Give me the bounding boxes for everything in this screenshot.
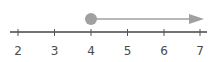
tick-label: 6 [160,44,168,58]
tick-label: 5 [124,44,132,58]
tick-labels: 2 3 4 5 6 7 [14,44,204,58]
closed-endpoint-circle [85,13,97,25]
tick-label: 4 [87,44,95,58]
tick-label: 3 [51,44,59,58]
tick-label: 7 [196,44,204,58]
tick-label: 2 [14,44,22,58]
arrowhead-right-icon [189,14,204,24]
number-line-diagram: 2 3 4 5 6 7 [0,0,217,62]
